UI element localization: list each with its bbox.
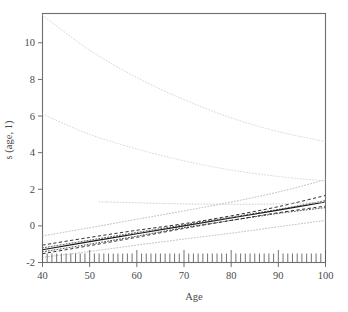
y-tick-label: 4 [30, 147, 36, 158]
series-line-upper-decaying-curve-top [43, 15, 326, 141]
chart-plot-area: 405060708090100 -20246810 Age s (age, 1) [0, 0, 348, 312]
y-axis: -20246810 [25, 37, 43, 268]
series-line-alt-fit-dotted-lower [43, 208, 326, 252]
y-tick-label: 10 [25, 37, 36, 48]
series-line-alt-fit-dotted-upper [43, 201, 326, 248]
x-axis: 405060708090100 [37, 263, 333, 281]
x-tick-label: 70 [179, 270, 190, 281]
y-tick-label: 2 [30, 184, 35, 195]
series-line-flat-dotted-segment [99, 202, 325, 205]
data-series-group [43, 15, 326, 257]
x-tick-label: 50 [84, 270, 95, 281]
x-tick-label: 60 [132, 270, 143, 281]
y-tick-label: 6 [30, 111, 35, 122]
x-tick-label: 90 [273, 270, 284, 281]
y-axis-title: s (age, 1) [3, 120, 15, 159]
series-line-upper-confidence-band [43, 195, 326, 245]
x-tick-label: 40 [37, 270, 48, 281]
plot-frame [43, 14, 326, 263]
y-tick-label: -2 [26, 257, 35, 268]
series-line-upper-decaying-curve-bottom [43, 114, 326, 181]
series-line-outer-band-upper [43, 180, 326, 236]
x-tick-label: 100 [318, 270, 334, 281]
chart-figure: 405060708090100 -20246810 Age s (age, 1) [0, 0, 348, 312]
y-tick-label: 8 [30, 74, 35, 85]
x-axis-title: Age [185, 291, 203, 302]
y-tick-label: 0 [30, 220, 35, 231]
x-tick-label: 80 [226, 270, 237, 281]
